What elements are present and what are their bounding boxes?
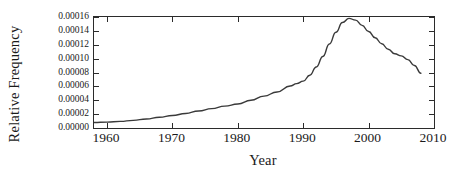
x-axis-tick-label: 2010 <box>403 130 463 146</box>
x-axis-tick-label: 1980 <box>207 130 267 146</box>
x-axis-tick-labels: 196019701980199020002010 <box>0 0 463 177</box>
x-axis-tick-label: 1970 <box>141 130 201 146</box>
x-axis-tick-label: 1960 <box>76 130 136 146</box>
x-axis-tick-label: 2000 <box>338 130 398 146</box>
chart-figure: Relative Frequency 0.000000.000020.00004… <box>0 0 463 177</box>
x-axis-tick-label: 1990 <box>272 130 332 146</box>
x-axis-title: Year <box>93 152 433 169</box>
